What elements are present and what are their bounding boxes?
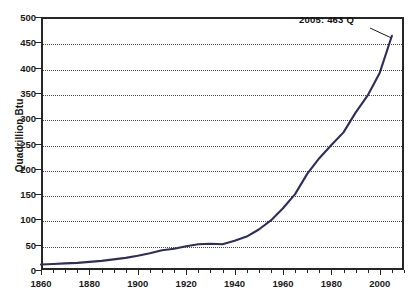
gridline — [43, 44, 402, 45]
x-tick-minor — [162, 270, 163, 273]
x-tick-minor — [404, 270, 405, 273]
gridline — [43, 171, 402, 172]
y-tick-label: 200 — [2, 164, 36, 175]
plot-area — [41, 17, 404, 270]
x-tick-minor — [259, 270, 260, 273]
gridline — [43, 221, 402, 222]
x-tick-minor — [150, 270, 151, 273]
annotation-2005-label: 2005: 463 Q — [299, 14, 354, 25]
x-tick-label: 1960 — [263, 278, 303, 289]
x-tick-major — [380, 270, 381, 275]
y-tick-mark — [35, 169, 41, 170]
x-tick-minor — [223, 270, 224, 273]
y-tick-mark — [35, 17, 41, 18]
y-tick-mark — [35, 245, 41, 246]
y-tick-mark — [35, 194, 41, 195]
y-tick-label: 100 — [2, 214, 36, 225]
y-tick-label: 350 — [2, 88, 36, 99]
gridline — [43, 196, 402, 197]
y-tick-mark — [35, 144, 41, 145]
y-tick-label: 500 — [2, 12, 36, 23]
x-tick-minor — [102, 270, 103, 273]
x-tick-minor — [319, 270, 320, 273]
x-tick-major — [283, 270, 284, 275]
gridline — [43, 95, 402, 96]
x-tick-major — [138, 270, 139, 275]
y-tick-label: 150 — [2, 189, 36, 200]
x-tick-minor — [271, 270, 272, 273]
gridline — [43, 70, 402, 71]
y-tick-mark — [35, 219, 41, 220]
y-tick-label: 450 — [2, 37, 36, 48]
x-tick-minor — [65, 270, 66, 273]
x-tick-major — [235, 270, 236, 275]
y-tick-mark — [35, 93, 41, 94]
y-tick-label: 400 — [2, 63, 36, 74]
y-tick-label: 0 — [2, 265, 36, 276]
y-tick-label: 300 — [2, 113, 36, 124]
x-tick-minor — [174, 270, 175, 273]
x-tick-minor — [307, 270, 308, 273]
y-tick-mark — [35, 118, 41, 119]
x-tick-major — [331, 270, 332, 275]
x-tick-minor — [198, 270, 199, 273]
gridline — [43, 146, 402, 147]
x-tick-minor — [368, 270, 369, 273]
y-tick-label: 250 — [2, 139, 36, 150]
y-tick-mark — [35, 42, 41, 43]
gridline — [43, 120, 402, 121]
x-tick-label: 1920 — [166, 278, 206, 289]
x-tick-label: 1980 — [311, 278, 351, 289]
y-tick-mark — [35, 68, 41, 69]
x-tick-label: 1880 — [69, 278, 109, 289]
x-tick-minor — [77, 270, 78, 273]
x-tick-label: 1940 — [215, 278, 255, 289]
x-tick-label: 1900 — [118, 278, 158, 289]
x-tick-minor — [356, 270, 357, 273]
x-tick-label: 2000 — [360, 278, 400, 289]
x-tick-label: 1860 — [21, 278, 61, 289]
x-tick-minor — [126, 270, 127, 273]
x-tick-major — [41, 270, 42, 275]
x-tick-minor — [53, 270, 54, 273]
x-tick-minor — [210, 270, 211, 273]
x-tick-major — [89, 270, 90, 275]
x-tick-minor — [344, 270, 345, 273]
energy-consumption-chart: Quadrillion Btu 050100150200250300350400… — [0, 0, 420, 302]
x-tick-minor — [114, 270, 115, 273]
x-tick-major — [186, 270, 187, 275]
x-tick-minor — [392, 270, 393, 273]
y-tick-label: 50 — [2, 240, 36, 251]
x-tick-minor — [247, 270, 248, 273]
x-tick-minor — [295, 270, 296, 273]
gridline — [43, 247, 402, 248]
